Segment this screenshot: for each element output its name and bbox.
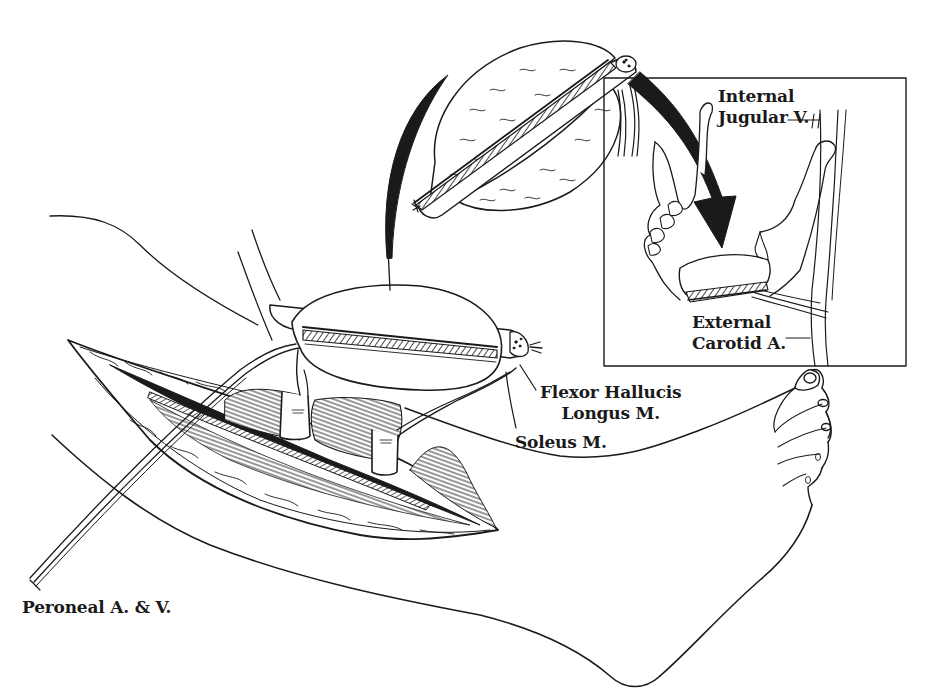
- label-line: Peroneal A. & V.: [22, 597, 171, 618]
- label-line: Carotid A.: [692, 333, 786, 354]
- label-line: Longus M.: [540, 403, 681, 424]
- label-peroneal-artery-vein: Peroneal A. & V.: [22, 597, 171, 618]
- label-internal-jugular-vein: Internal Jugular V.: [718, 86, 809, 128]
- label-line: Internal: [718, 86, 809, 107]
- foot-toes: [774, 369, 831, 505]
- label-line: Jugular V.: [718, 107, 809, 128]
- label-line: Soleus M.: [515, 432, 607, 453]
- label-soleus-muscle: Soleus M.: [515, 432, 607, 453]
- label-line: Flexor Hallucis: [540, 382, 681, 403]
- label-line: External: [692, 312, 786, 333]
- harvested-flap: [412, 41, 639, 218]
- label-flexor-hallucis-longus: Flexor Hallucis Longus M.: [540, 382, 681, 424]
- label-external-carotid-artery: External Carotid A.: [692, 312, 786, 354]
